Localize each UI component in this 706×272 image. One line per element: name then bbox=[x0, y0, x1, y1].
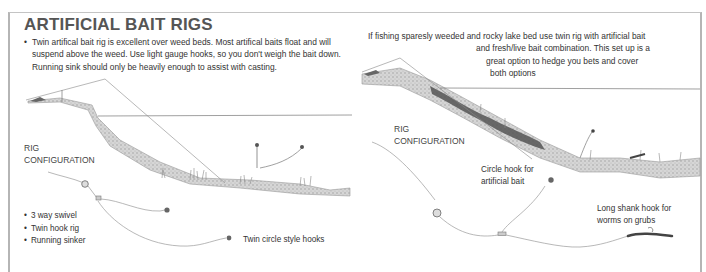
circle-hook-annotation: Circle hook for artificial bait bbox=[481, 164, 534, 187]
worm-bait-icon bbox=[628, 234, 672, 236]
left-rig-label: RIG CONFIGURATION bbox=[24, 142, 95, 166]
component-item: Twin hook rig bbox=[24, 223, 86, 236]
swivel-icon bbox=[96, 196, 101, 200]
long-shank-annotation: Long shank hook for worms on grubs bbox=[597, 203, 671, 226]
artificial-bait-icon bbox=[255, 143, 259, 147]
circle-hook-icon bbox=[227, 236, 232, 241]
artificial-bait-icon bbox=[300, 145, 304, 149]
long-shank-hook-icon bbox=[648, 227, 653, 232]
component-item: 3 way swivel bbox=[24, 210, 86, 223]
right-rig-label: RIG CONFIGURATION bbox=[394, 123, 465, 147]
component-item: Running sinker bbox=[24, 235, 86, 248]
annotation-line: Long shank hook for bbox=[597, 203, 671, 215]
hooks-annotation: Twin circle style hooks bbox=[243, 234, 324, 246]
annotation-line: artificial bait bbox=[481, 176, 534, 188]
rig-label-line: RIG bbox=[24, 142, 95, 154]
circle-hook-icon bbox=[164, 207, 169, 212]
swivel-icon bbox=[498, 232, 506, 236]
annotation-line: worms on grubs bbox=[597, 215, 671, 227]
annotation-line: Circle hook for bbox=[481, 164, 534, 176]
rig-label-line: CONFIGURATION bbox=[394, 135, 465, 147]
rig-label-line: CONFIGURATION bbox=[24, 154, 95, 166]
rig-label-line: RIG bbox=[394, 123, 465, 135]
circle-hook-icon bbox=[548, 177, 553, 182]
component-list: 3 way swivel Twin hook rig Running sinke… bbox=[24, 210, 86, 248]
running-sinker-icon bbox=[433, 209, 441, 217]
running-sinker-icon bbox=[82, 181, 89, 188]
